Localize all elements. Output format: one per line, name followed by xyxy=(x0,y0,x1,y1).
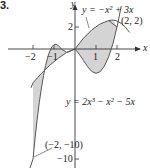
point-label-2-2: (2, 2) xyxy=(121,16,143,26)
y-tick-label-2: 2 xyxy=(68,22,73,32)
x-tick-label-neg1: −1 xyxy=(47,52,58,62)
x-tick-label-2: 2 xyxy=(115,52,120,62)
parabola-label: y = −x² + 3x xyxy=(82,5,134,15)
parabola-leader xyxy=(86,17,89,28)
x-tick-label-1: 1 xyxy=(93,52,98,62)
cubic-label: y = 2x³ − x² − 5x xyxy=(66,97,135,107)
x-axis-label: x xyxy=(143,43,147,53)
y-axis-label: y xyxy=(71,0,75,9)
y-tick-label-neg10: −10 xyxy=(57,154,73,164)
x-tick-label-neg2: −2 xyxy=(25,52,36,62)
x-axis-arrow xyxy=(135,47,141,52)
point-label-neg2-neg10: (−2, −10) xyxy=(45,140,83,150)
figure: 3. y x −2 −1 1 2 2 −10 y = −x² + 3x y = … xyxy=(0,0,150,168)
